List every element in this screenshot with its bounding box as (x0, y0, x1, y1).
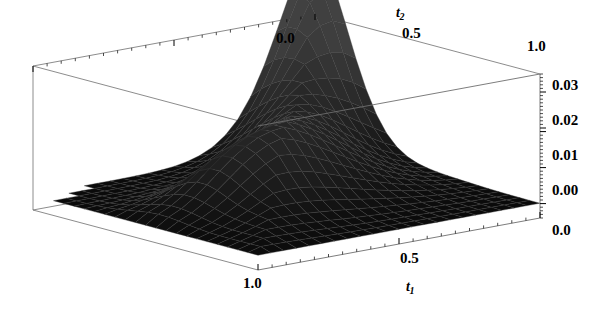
t2-tick-label-2: 1.0 (527, 39, 546, 54)
t2-axis-label-subscript: 2 (399, 11, 404, 22)
surface-mesh (53, 0, 540, 255)
z-tick-label-003: 0.03 (552, 78, 578, 93)
z-tick-label-001: 0.01 (552, 148, 578, 163)
t1-tick-label-1: 0.5 (400, 251, 419, 266)
z-tick-label-000: 0.00 (552, 183, 578, 198)
t1-axis-label-subscript: 1 (409, 285, 414, 296)
t1-tick-label-0: 1.0 (243, 276, 262, 291)
surface-plot-canvas (0, 0, 602, 309)
t2-axis-label: t2 (396, 6, 404, 22)
z-tick-label-002: 0.02 (552, 113, 578, 128)
surface-plot-figure: 0.0 0.5 1.0 1.0 0.5 0.03 0.02 0.01 0.00 … (0, 0, 602, 309)
t2-tick-label-1: 0.5 (402, 26, 421, 41)
t1-axis-label: t1 (406, 280, 414, 296)
t1-tick-label-right-00: 0.0 (552, 223, 571, 238)
t2-tick-label-0: 0.0 (276, 31, 295, 46)
